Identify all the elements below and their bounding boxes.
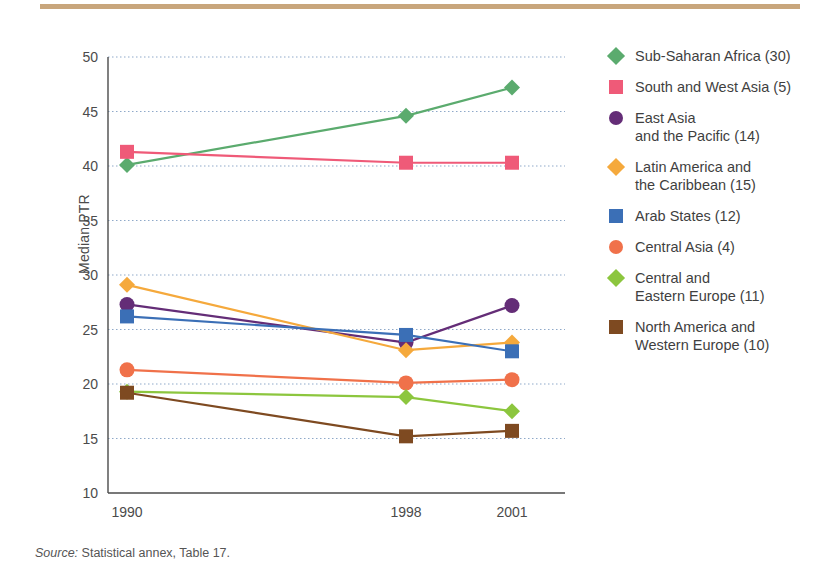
y-tick-label: 15 [82, 431, 98, 447]
legend-diamond-icon [607, 47, 625, 65]
gridlines [108, 57, 565, 439]
legend-item[interactable]: Central Asia (4) [608, 238, 826, 256]
data-point-marker [398, 108, 414, 124]
data-point-marker [504, 403, 520, 419]
x-tick-label: 1990 [111, 504, 142, 520]
y-tick-label: 25 [82, 322, 98, 338]
legend-item[interactable]: Sub-Saharan Africa (30) [608, 47, 826, 65]
data-point-marker [399, 328, 413, 342]
legend-item-label: North America and Western Europe (10) [635, 318, 769, 354]
legend-item[interactable]: Latin America and the Caribbean (15) [608, 158, 826, 194]
data-point-marker [505, 372, 520, 387]
legend-item[interactable]: East Asia and the Pacific (14) [608, 109, 826, 145]
series-line [127, 152, 512, 163]
legend-item-label: South and West Asia (5) [635, 78, 791, 96]
chart-legend: Sub-Saharan Africa (30)South and West As… [608, 47, 826, 367]
legend-square-icon [609, 320, 623, 334]
data-point-marker [119, 157, 135, 173]
legend-item-label: Central Asia (4) [635, 238, 735, 256]
x-tick-label: 1998 [390, 504, 421, 520]
y-tick-label: 50 [82, 49, 98, 65]
data-point-marker [399, 429, 413, 443]
x-axis-tick-labels: 199019982001 [111, 504, 527, 520]
data-point-marker [505, 298, 520, 313]
legend-diamond-icon [607, 158, 625, 176]
legend-diamond-icon [607, 269, 625, 287]
data-point-marker [120, 309, 134, 323]
data-point-marker [120, 386, 134, 400]
data-point-marker [120, 362, 135, 377]
source-note: Source: Statistical annex, Table 17. [35, 546, 230, 560]
legend-item-label: Latin America and the Caribbean (15) [635, 158, 756, 194]
y-tick-label: 45 [82, 104, 98, 120]
legend-item-label: Central and Eastern Europe (11) [635, 269, 765, 305]
legend-item[interactable]: Central and Eastern Europe (11) [608, 269, 826, 305]
legend-item[interactable]: South and West Asia (5) [608, 78, 826, 96]
legend-square-icon [609, 209, 623, 223]
x-tick-label: 2001 [496, 504, 527, 520]
data-point-marker [504, 80, 520, 96]
series-line [127, 285, 512, 350]
legend-square-icon [609, 80, 623, 94]
data-point-marker [505, 156, 519, 170]
source-label: Source: [35, 546, 78, 560]
figure-page: 504540353025201510 199019982001 Median P… [0, 0, 832, 579]
y-axis-title: Median PTR [76, 164, 92, 304]
data-point-marker [505, 344, 519, 358]
data-point-marker [399, 156, 413, 170]
data-point-marker [119, 277, 135, 293]
legend-item[interactable]: North America and Western Europe (10) [608, 318, 826, 354]
legend-item-label: East Asia and the Pacific (14) [635, 109, 760, 145]
data-series [119, 277, 520, 358]
series-line [127, 393, 512, 437]
data-point-marker [399, 375, 414, 390]
data-point-marker [398, 389, 414, 405]
legend-item-label: Arab States (12) [635, 207, 741, 225]
legend-circle-icon [609, 111, 623, 125]
series-line [127, 304, 512, 342]
data-series [120, 145, 519, 170]
data-series-layer [119, 80, 520, 444]
data-series [120, 309, 519, 358]
data-point-marker [505, 424, 519, 438]
series-line [127, 370, 512, 383]
data-series [120, 362, 520, 390]
legend-item-label: Sub-Saharan Africa (30) [635, 47, 791, 65]
legend-circle-icon [609, 240, 623, 254]
data-point-marker [120, 145, 134, 159]
legend-item[interactable]: Arab States (12) [608, 207, 826, 225]
y-tick-label: 20 [82, 376, 98, 392]
y-tick-label: 10 [82, 485, 98, 501]
source-value: Statistical annex, Table 17. [78, 546, 230, 560]
